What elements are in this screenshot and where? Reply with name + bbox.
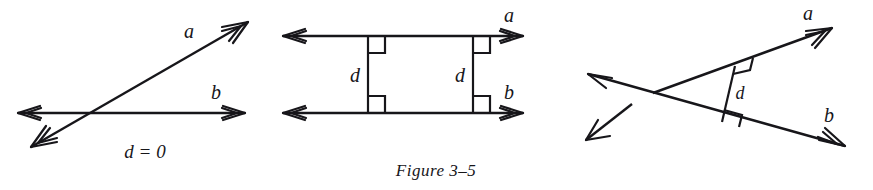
label-line-b-right: b (824, 104, 834, 126)
figure-3-5: a b d = 0 (0, 0, 873, 190)
panel-oblique-lines: d a b (586, 2, 845, 146)
right-angle-mark-left-bottom (368, 96, 385, 113)
line-b-right-panel (588, 74, 845, 146)
figure-canvas: a b d = 0 (0, 0, 873, 190)
label-line-b: b (211, 81, 221, 103)
line-a-left-ray-right-panel (586, 104, 632, 140)
line-a-middle-panel (283, 29, 523, 43)
label-distance-zero: d = 0 (124, 141, 166, 162)
figure-caption: Figure 3–5 (395, 161, 476, 180)
arrowhead-right-b-right (818, 128, 845, 146)
label-distance-oblique: d (736, 83, 746, 103)
right-angle-mark-right-bottom (473, 96, 490, 113)
panel-intersecting-lines: a b d = 0 (18, 20, 248, 162)
label-line-a-right: a (803, 2, 813, 24)
label-line-a: a (184, 20, 194, 42)
label-distance-right: d (455, 64, 466, 86)
label-distance-left: d (350, 64, 361, 86)
right-angle-mark-left-top (368, 36, 385, 53)
arrowhead-upper-a-right (806, 28, 832, 48)
label-line-a-middle: a (504, 4, 514, 26)
line-b-left-panel (18, 106, 245, 120)
label-line-b-middle: b (504, 81, 514, 103)
arrowhead-left-b-right (588, 74, 612, 88)
line-b-middle-panel (283, 106, 523, 120)
panel-parallel-lines: d d a b (283, 4, 523, 120)
right-angle-mark-right-top (473, 36, 490, 53)
